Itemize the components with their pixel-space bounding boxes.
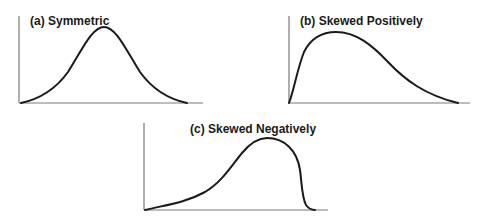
panel-symmetric: (a) Symmetric [19,14,203,103]
panel-title: (a) Symmetric [30,14,110,28]
panel-title: (b) Skewed Positively [300,14,423,28]
panel-title: (c) Skewed Negatively [190,122,316,136]
distribution-shapes-figure: (a) Symmetric (b) Skewed Positively (c) … [0,0,483,219]
panel-skewed-negatively: (c) Skewed Negatively [144,122,328,210]
positive-skew-curve [289,32,458,103]
symmetric-curve [21,27,187,103]
negative-skew-curve [145,138,315,210]
panel-skewed-positively: (b) Skewed Positively [289,14,470,103]
